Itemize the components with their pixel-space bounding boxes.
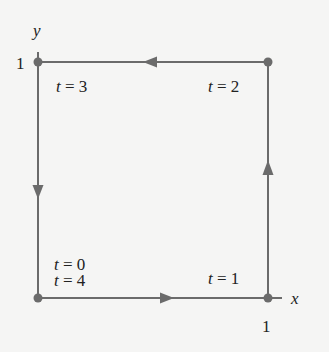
- label-t3: t = 3: [56, 78, 87, 95]
- x-axis-label: x: [291, 290, 299, 307]
- label-t1: t = 1: [208, 270, 239, 287]
- y-axis-label: y: [33, 22, 41, 39]
- x-tick-label: 1: [262, 318, 271, 335]
- label-t4: t = 4: [54, 272, 85, 289]
- vertex-bottom-right: [264, 294, 273, 303]
- vertex-top-right: [264, 58, 273, 67]
- arrow-down-icon: [33, 185, 44, 199]
- label-t2: t = 2: [208, 78, 239, 95]
- vertex-origin: [34, 294, 43, 303]
- arrow-right-icon: [160, 293, 174, 304]
- arrow-left-icon: [143, 57, 157, 68]
- diagram-canvas: [0, 0, 329, 352]
- arrow-up-icon: [263, 160, 274, 175]
- y-tick-label: 1: [16, 55, 25, 72]
- vertex-top-left: [34, 58, 43, 67]
